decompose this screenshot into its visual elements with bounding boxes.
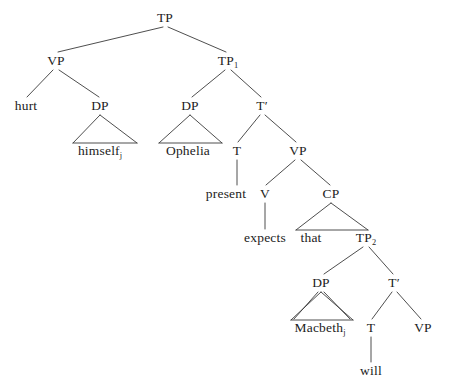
tree-node-vp_left: VP [47, 54, 65, 68]
tree-node-present: present [206, 187, 246, 201]
tree-branch-tbar1-vp_mid [265, 115, 296, 142]
tree-node-tbar1: T′ [256, 99, 268, 113]
tree-node-himself: himselfj [78, 144, 122, 158]
tree-branch-tbar2-vp_bottom [397, 292, 421, 319]
bar-level-prime-mark: ′ [265, 98, 268, 113]
tree-branch-tbar1-t1 [238, 115, 260, 142]
tree-node-t1: T [233, 144, 241, 158]
tree-node-label: expects [244, 230, 286, 245]
tree-node-that: that [300, 231, 321, 245]
tree-node-label: VP [414, 320, 432, 335]
tree-node-label: DP [181, 98, 199, 113]
tree-branch-dp_macbeth-macbeth2 [324, 292, 350, 319]
tri-ophelia-left-side [159, 115, 190, 143]
tree-node-vp_bottom: VP [414, 321, 432, 335]
tri-cp-right-side [331, 203, 368, 230]
tree-node-label: T [233, 143, 241, 158]
tree-node-label: CP [323, 186, 340, 201]
tree-node-dp_macbeth: DP [312, 276, 330, 290]
tree-branch-tbar2-t2 [372, 292, 392, 319]
tree-node-label: T [367, 320, 375, 335]
tree-node-label: TP [157, 10, 173, 25]
tree-node-subscript: 1 [234, 61, 238, 70]
tri-himself-right-side [100, 115, 137, 143]
tree-node-label: hurt [15, 98, 38, 113]
tree-node-label: that [300, 230, 321, 245]
tree-node-label: VP [289, 143, 307, 158]
tree-node-hurt: hurt [15, 99, 38, 113]
tree-branch-vp_mid-cp [301, 160, 330, 185]
tree-branch-tp2-dp_macbeth [324, 247, 363, 274]
tree-node-tp: TP [157, 11, 173, 25]
tree-branch-tp2-tbar2 [369, 247, 393, 274]
tree-branch-tp1-tbar1 [231, 70, 261, 97]
tree-node-label: VP [47, 53, 65, 68]
bar-level-prime-mark: ′ [397, 275, 400, 290]
tree-node-subscript: 2 [372, 238, 376, 247]
tree-node-subscript: j [343, 328, 345, 337]
syntax-tree-figure: TPVPTP1hurtDPDPT′himselfjOpheliaTVPprese… [0, 0, 455, 388]
tree-node-label: DP [312, 275, 330, 290]
tri-himself-left-side [73, 115, 100, 143]
tree-node-label: himself [78, 143, 120, 158]
tree-branch-tp-tp1 [168, 27, 226, 52]
tree-node-label: Macbeth [295, 320, 344, 335]
tree-node-label: Ophelia [166, 143, 210, 158]
tree-node-subscript: j [120, 151, 122, 160]
tree-branch-dp_macbeth-macbeth [294, 292, 318, 319]
tree-node-cp: CP [323, 187, 340, 201]
tree-node-expects: expects [244, 231, 286, 245]
tree-node-v: V [260, 187, 270, 201]
tri-cp-left-side [296, 203, 331, 230]
tree-branch-vp_mid-v [266, 160, 295, 185]
tree-node-tp1: TP1 [218, 54, 238, 68]
tree-node-label: DP [91, 98, 109, 113]
tree-branch-tp-vp_left [58, 27, 163, 52]
tree-node-dp_ophelia: DP [181, 99, 199, 113]
tree-branch-vp_left-dp_himself [59, 70, 99, 97]
tri-macbeth-left-side [291, 292, 321, 320]
tree-node-t2: T [367, 321, 375, 335]
tri-ophelia-right-side [190, 115, 222, 143]
tree-node-label: TP [218, 53, 234, 68]
tree-node-vp_mid: VP [289, 144, 307, 158]
tree-node-label: will [360, 363, 382, 378]
tree-node-tp2: TP2 [356, 231, 376, 245]
tree-node-label: present [206, 186, 246, 201]
tree-node-ophelia: Ophelia [166, 144, 210, 158]
tri-macbeth-right-side [321, 292, 353, 320]
tree-node-macbeth: Macbethj [295, 321, 346, 335]
tree-node-dp_himself: DP [91, 99, 109, 113]
tree-branch-tp1-dp_ophelia [192, 70, 225, 97]
tree-node-tbar2: T′ [388, 276, 400, 290]
tree-branch-vp_left-hurt [27, 70, 53, 97]
tree-node-will: will [360, 364, 382, 378]
tree-node-label: V [260, 186, 270, 201]
tree-node-label: TP [356, 230, 372, 245]
